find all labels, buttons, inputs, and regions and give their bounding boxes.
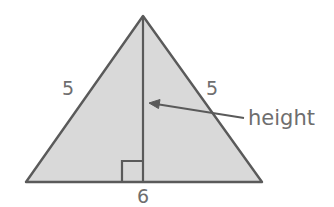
geometry-figure: 5 5 6 height bbox=[0, 0, 334, 207]
base-label: 6 bbox=[137, 185, 149, 207]
right-side-label: 5 bbox=[206, 77, 218, 99]
left-side-label: 5 bbox=[62, 77, 74, 99]
height-label: height bbox=[248, 106, 315, 130]
triangle-diagram-canvas: 5 5 6 height bbox=[0, 0, 334, 207]
